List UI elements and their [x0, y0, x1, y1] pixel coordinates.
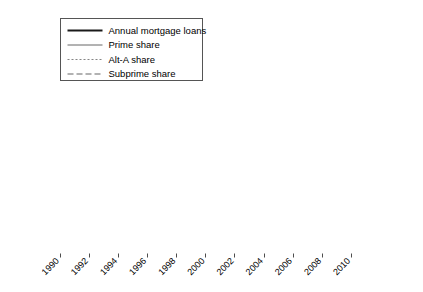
legend-label-3: Subprime share	[109, 68, 176, 79]
x-tick-label: 2000	[185, 256, 206, 277]
x-tick-label: 1990	[40, 256, 61, 277]
x-tick-label: 1994	[98, 256, 119, 277]
tick-marks-x	[61, 254, 352, 258]
x-tick-label: 2010	[331, 256, 352, 277]
x-tick-label: 2008	[302, 256, 323, 277]
x-tick-label: 2006	[273, 256, 294, 277]
legend-label-0: Annual mortgage loans	[109, 25, 207, 36]
x-tick-label: 1996	[127, 256, 148, 277]
x-tick-label: 2004	[244, 256, 265, 277]
x-tick-labels: 1990199219941996199820002002200420062008…	[40, 256, 353, 277]
x-tick-label: 1998	[156, 256, 177, 277]
x-tick-label: 1992	[69, 256, 90, 277]
legend: Annual mortgage loansPrime shareAlt-A sh…	[61, 19, 207, 81]
legend-label-2: Alt-A share	[109, 54, 155, 65]
mortgage-loans-chart: 1990199219941996199820002002200420062008…	[0, 0, 423, 292]
legend-label-1: Prime share	[109, 39, 160, 50]
x-tick-label: 2002	[215, 256, 236, 277]
chart-canvas: 1990199219941996199820002002200420062008…	[0, 0, 423, 292]
